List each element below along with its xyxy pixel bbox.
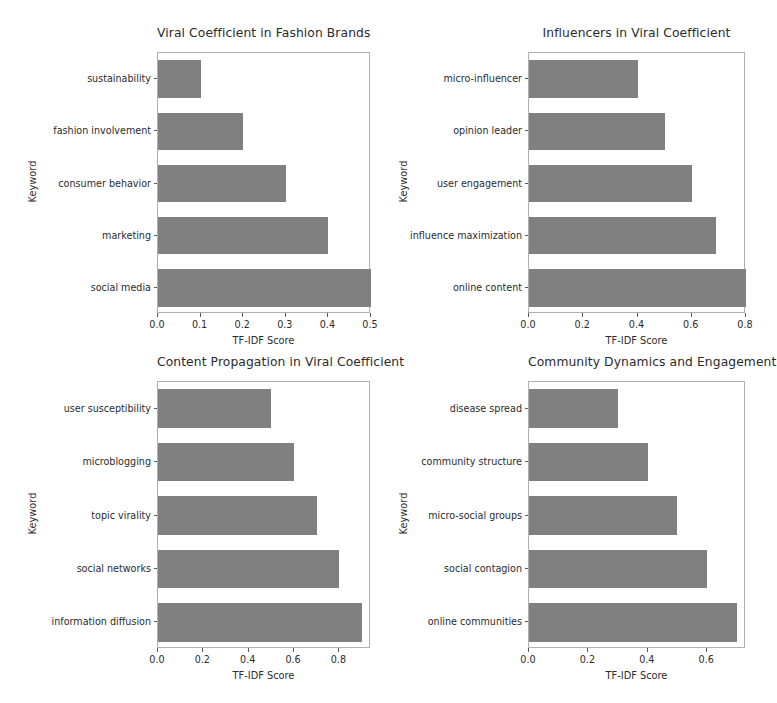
bar — [158, 113, 243, 151]
x-tick-label: 0.6 — [699, 654, 714, 665]
y-tick-mark — [154, 515, 158, 516]
y-tick-mark — [525, 461, 529, 462]
figure-canvas: Viral Coefficient in Fashion Brandssusta… — [0, 0, 777, 703]
y-tick-label: community structure — [328, 456, 522, 467]
bar — [158, 217, 328, 255]
x-tick-mark — [327, 313, 328, 317]
chart-panel-4: Community Dynamics and Engagementdisease… — [0, 0, 777, 703]
x-tick-mark — [528, 648, 529, 652]
bar — [529, 269, 746, 307]
x-axis-label: TF-IDF Score — [157, 670, 370, 681]
bar — [158, 443, 294, 481]
x-tick-label: 0.8 — [331, 654, 346, 665]
x-tick-mark — [338, 648, 339, 652]
y-tick-mark — [154, 235, 158, 236]
y-tick-mark — [525, 78, 529, 79]
y-tick-label: microblogging — [0, 456, 151, 467]
bar — [529, 603, 737, 641]
chart-panel-3: Content Propagation in Viral Coefficient… — [0, 0, 777, 703]
y-tick-label: online communities — [328, 616, 522, 627]
x-tick-label: 0.6 — [285, 654, 300, 665]
y-tick-label: fashion involvement — [0, 125, 151, 136]
y-tick-label: disease spread — [328, 402, 522, 413]
bar — [529, 217, 716, 255]
y-tick-mark — [525, 408, 529, 409]
bar — [529, 550, 707, 588]
chart-title: Community Dynamics and Engagement — [528, 355, 745, 369]
x-tick-label: 0.3 — [277, 319, 292, 330]
y-tick-label: social networks — [0, 562, 151, 573]
y-tick-mark — [154, 408, 158, 409]
y-tick-label: sustainability — [0, 73, 151, 84]
x-tick-mark — [706, 648, 707, 652]
y-tick-label: user susceptibility — [0, 402, 151, 413]
bar — [529, 389, 618, 427]
x-tick-mark — [293, 648, 294, 652]
x-tick-label: 0.4 — [629, 319, 644, 330]
x-tick-mark — [647, 648, 648, 652]
x-tick-mark — [202, 648, 203, 652]
y-tick-mark — [525, 287, 529, 288]
x-tick-mark — [285, 313, 286, 317]
y-axis-label: Keyword — [398, 380, 409, 647]
y-tick-label: consumer behavior — [0, 177, 151, 188]
x-tick-label: 0.6 — [683, 319, 698, 330]
y-tick-label: topic virality — [0, 509, 151, 520]
chart-panel-1: Viral Coefficient in Fashion Brandssusta… — [0, 0, 777, 703]
bar — [529, 443, 648, 481]
bar — [158, 496, 317, 534]
y-tick-mark — [154, 130, 158, 131]
x-tick-label: 0.4 — [240, 654, 255, 665]
bar — [529, 113, 665, 151]
x-tick-label: 0.2 — [580, 654, 595, 665]
plot-area — [157, 52, 370, 313]
x-tick-mark — [528, 313, 529, 317]
y-tick-label: opinion leader — [328, 125, 522, 136]
x-axis-label: TF-IDF Score — [157, 335, 370, 346]
bar — [529, 496, 677, 534]
y-tick-mark — [154, 568, 158, 569]
x-tick-mark — [157, 313, 158, 317]
y-tick-mark — [525, 515, 529, 516]
x-tick-mark — [157, 648, 158, 652]
y-tick-mark — [525, 235, 529, 236]
y-axis-label: Keyword — [398, 51, 409, 312]
y-tick-label: social contagion — [328, 562, 522, 573]
plot-area — [157, 381, 370, 648]
y-tick-label: user engagement — [328, 177, 522, 188]
y-tick-mark — [154, 461, 158, 462]
y-tick-label: micro-social groups — [328, 509, 522, 520]
x-tick-mark — [691, 313, 692, 317]
x-tick-label: 0.0 — [149, 654, 164, 665]
y-tick-mark — [525, 568, 529, 569]
y-tick-mark — [154, 183, 158, 184]
bar — [158, 603, 362, 641]
x-tick-label: 0.0 — [149, 319, 164, 330]
x-tick-label: 0.5 — [362, 319, 377, 330]
plot-area — [528, 381, 745, 648]
chart-title: Influencers in Viral Coefficient — [528, 26, 745, 40]
x-tick-label: 0.2 — [575, 319, 590, 330]
x-tick-mark — [370, 313, 371, 317]
plot-area — [528, 52, 745, 313]
y-tick-mark — [525, 621, 529, 622]
chart-title: Viral Coefficient in Fashion Brands — [157, 26, 370, 40]
x-tick-mark — [582, 313, 583, 317]
y-tick-label: micro-influencer — [328, 73, 522, 84]
x-tick-label: 0.0 — [520, 654, 535, 665]
bar — [158, 389, 271, 427]
bar — [158, 550, 339, 588]
x-tick-mark — [637, 313, 638, 317]
x-tick-mark — [242, 313, 243, 317]
x-axis-label: TF-IDF Score — [528, 670, 745, 681]
x-tick-label: 0.4 — [639, 654, 654, 665]
bar — [158, 165, 286, 203]
y-axis-label: Keyword — [27, 51, 38, 312]
bar — [158, 269, 371, 307]
x-tick-label: 0.0 — [520, 319, 535, 330]
chart-panel-2: Influencers in Viral Coefficientmicro-in… — [0, 0, 777, 703]
y-axis-label: Keyword — [27, 380, 38, 647]
y-tick-label: influence maximization — [328, 229, 522, 240]
x-axis-label: TF-IDF Score — [528, 335, 745, 346]
y-tick-label: information diffusion — [0, 616, 151, 627]
